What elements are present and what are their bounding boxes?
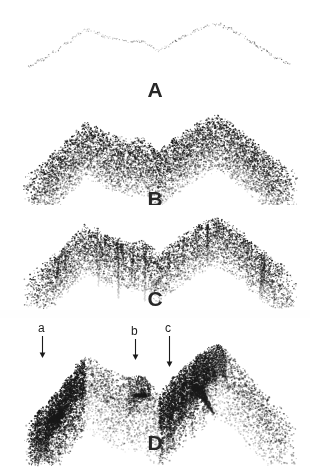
panel-a-letter: A (0, 79, 310, 100)
arrow-a-icon (38, 336, 47, 359)
panel-c: C (0, 205, 310, 310)
panel-a: A (0, 0, 310, 100)
panel-d-letter: D (0, 432, 310, 453)
arrow-label-b: b (131, 325, 138, 337)
panel-b: B (0, 100, 310, 208)
arrow-b-icon (131, 339, 140, 361)
arrow-label-a: a (38, 322, 45, 334)
figure-container: A B C D a b c (0, 0, 310, 467)
arrow-label-c: c (165, 322, 171, 334)
panel-c-letter: C (0, 288, 310, 309)
arrow-c-icon (165, 336, 174, 368)
